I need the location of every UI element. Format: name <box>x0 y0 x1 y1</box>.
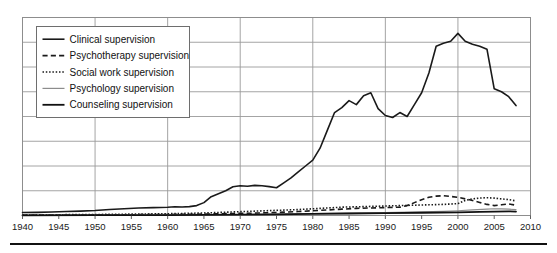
x-tick-label: 2010 <box>520 221 541 232</box>
chart-figure: 1940194519501955196019651970197519801985… <box>0 0 557 253</box>
x-tick-label: 1985 <box>339 221 360 232</box>
x-tick-label: 1980 <box>302 221 323 232</box>
x-tick-label: 1990 <box>375 221 396 232</box>
legend-label: Psychotherapy supervision <box>70 50 190 61</box>
x-tick-label: 1960 <box>157 221 178 232</box>
ngram-line-chart: 1940194519501955196019651970197519801985… <box>0 0 557 253</box>
x-tick-label: 1940 <box>12 221 33 232</box>
legend-label: Social work supervision <box>70 67 175 78</box>
x-tick-label: 2005 <box>484 221 505 232</box>
x-tick-label: 1955 <box>121 221 142 232</box>
x-tick-label: 1965 <box>193 221 214 232</box>
chart-legend: Clinical supervisionPsychotherapy superv… <box>37 27 190 118</box>
bottom-rule <box>10 243 547 245</box>
legend-label: Psychology supervision <box>70 83 175 94</box>
legend-label: Counseling supervision <box>70 99 173 110</box>
legend-label: Clinical supervision <box>70 34 156 45</box>
x-tick-label: 1945 <box>48 221 69 232</box>
x-axis-tick-labels: 1940194519501955196019651970197519801985… <box>12 221 541 232</box>
x-tick-label: 1975 <box>266 221 287 232</box>
x-tick-label: 1995 <box>411 221 432 232</box>
x-tick-label: 2000 <box>447 221 468 232</box>
x-tick-label: 1950 <box>85 221 106 232</box>
x-tick-label: 1970 <box>230 221 251 232</box>
